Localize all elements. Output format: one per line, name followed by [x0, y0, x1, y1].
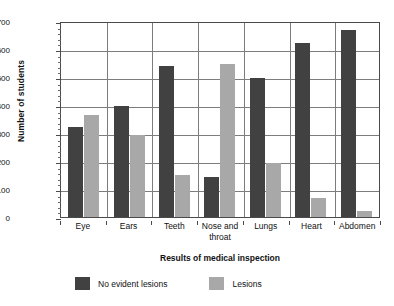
legend-label: No evident lesions	[98, 279, 167, 289]
bar	[250, 78, 265, 217]
y-axis-title: Number of students	[16, 36, 26, 166]
legend-swatch	[209, 277, 224, 290]
x-tick-mark	[289, 221, 290, 225]
x-tick-label: Abdomen	[334, 221, 380, 242]
y-tick-label: 100	[0, 186, 10, 195]
bar-group	[243, 23, 288, 217]
y-tick-label: 700	[0, 18, 10, 27]
y-tick-label: 600	[0, 46, 10, 55]
x-tick-mark	[380, 221, 381, 225]
x-tick-mark	[334, 221, 335, 225]
bar	[84, 115, 99, 217]
x-tick-label-line: Nose and	[197, 221, 243, 232]
x-tick-mark	[151, 221, 152, 225]
legend-label: Lesions	[232, 279, 261, 289]
bar	[159, 66, 174, 217]
bar	[311, 198, 326, 217]
x-tick-label-line: Abdomen	[334, 221, 380, 232]
plot-area	[60, 22, 380, 218]
x-tick-label-line: throat	[197, 232, 243, 243]
x-tick-mark	[197, 221, 198, 225]
bar	[175, 175, 190, 217]
y-tick-mark	[56, 219, 61, 220]
x-tick-label-line: Ears	[106, 221, 152, 232]
bar-group	[197, 23, 242, 217]
x-tick-mark	[60, 221, 61, 225]
bar	[130, 135, 145, 217]
x-tick-label-line: Eye	[60, 221, 106, 232]
bar-chart: Number of students 010020030040050060070…	[0, 0, 394, 306]
y-tick-label: 300	[0, 130, 10, 139]
legend-item[interactable]: Lesions	[209, 277, 261, 290]
bar-group	[152, 23, 197, 217]
bar-group	[288, 23, 333, 217]
x-tick-label: Nose andthroat	[197, 221, 243, 242]
bar	[266, 163, 281, 217]
chart-legend: No evident lesionsLesions	[75, 277, 262, 290]
x-tick-mark	[243, 221, 244, 225]
bar	[357, 211, 372, 217]
legend-swatch	[75, 277, 90, 290]
bar	[68, 127, 83, 217]
x-axis-title: Results of medical inspection	[60, 253, 380, 263]
x-tick-label-line: Lungs	[243, 221, 289, 232]
x-tick-label-line: Heart	[289, 221, 335, 232]
bar	[220, 64, 235, 217]
x-tick-label: Teeth	[151, 221, 197, 242]
x-tick-label-line: Teeth	[151, 221, 197, 232]
y-tick-label: 400	[0, 102, 10, 111]
bar	[295, 43, 310, 217]
legend-item[interactable]: No evident lesions	[75, 277, 167, 290]
x-tick-label: Heart	[289, 221, 335, 242]
y-tick-label: 500	[0, 74, 10, 83]
x-tick-label: Lungs	[243, 221, 289, 242]
bar-group	[334, 23, 379, 217]
y-tick-label: 200	[0, 158, 10, 167]
bar-group	[61, 23, 106, 217]
x-tick-mark	[106, 221, 107, 225]
x-axis-labels: EyeEarsTeethNose andthroatLungsHeartAbdo…	[60, 221, 380, 242]
x-tick-label: Eye	[60, 221, 106, 242]
y-tick-label: 0	[0, 214, 10, 223]
bar	[341, 30, 356, 217]
bar-groups	[61, 23, 379, 217]
x-tick-label: Ears	[106, 221, 152, 242]
bar	[114, 106, 129, 217]
bar	[204, 177, 219, 217]
bar-group	[106, 23, 151, 217]
